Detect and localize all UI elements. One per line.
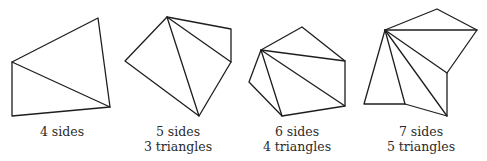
sides-label: 5 sides <box>118 124 238 139</box>
hexagon-caption: 6 sides 4 triangles <box>237 124 357 154</box>
diagonal-line <box>385 30 447 116</box>
diagonal-line <box>167 17 199 116</box>
pentagon-figure <box>125 17 231 116</box>
triangles-label: 5 triangles <box>361 139 481 154</box>
polygon-outline <box>364 9 477 116</box>
diagonal-line <box>261 50 345 106</box>
heptagon-figure <box>364 9 477 116</box>
sides-label: 4 sides <box>2 124 122 139</box>
pentagon-caption: 5 sides 3 triangles <box>118 124 238 154</box>
sides-label: 6 sides <box>237 124 357 139</box>
sides-label: 7 sides <box>361 124 481 139</box>
heptagon-caption: 7 sides 5 triangles <box>361 124 481 154</box>
hexagon-figure <box>249 27 345 116</box>
triangles-label: 4 triangles <box>237 139 357 154</box>
quadrilateral-caption: 4 sides <box>2 124 122 139</box>
diagonal-line <box>12 62 110 107</box>
quadrilateral-figure <box>12 18 110 116</box>
polygon-outline <box>12 18 110 116</box>
triangles-label: 3 triangles <box>118 139 238 154</box>
diagonal-line <box>167 17 231 62</box>
polygon-outline <box>249 27 345 116</box>
polygon-outline <box>125 17 231 116</box>
